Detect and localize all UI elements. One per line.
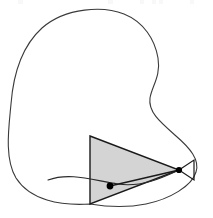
scan-artifact (140, 0, 144, 4)
scan-artifact (159, 0, 163, 4)
scan-artifact (152, 0, 156, 4)
shaded-triangle (90, 136, 179, 204)
scan-artifact (18, 0, 23, 4)
geometry-figure (0, 0, 213, 218)
figure-container (0, 0, 213, 218)
boundary-contact-point-dot (176, 167, 182, 173)
scan-artifact (190, 0, 194, 4)
scan-artifact (108, 0, 113, 4)
interior-contact-point-dot (107, 183, 114, 190)
